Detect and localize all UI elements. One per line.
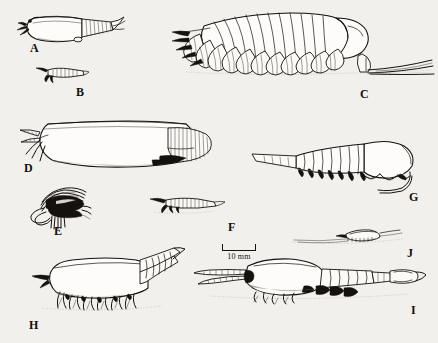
figure-c [170, 4, 436, 86]
specimen-plate: A B [0, 0, 438, 343]
figure-g [250, 132, 422, 194]
scale-bar: 10 mm [222, 244, 256, 261]
scale-bar-bracket [222, 244, 256, 251]
figure-label-f: F [228, 221, 236, 233]
figure-label-d: D [24, 162, 33, 174]
figure-i [194, 256, 426, 308]
figure-label-h: H [29, 319, 39, 331]
figure-label-c: C [360, 88, 369, 100]
figure-label-i: I [411, 304, 416, 316]
figure-h [28, 246, 186, 316]
figure-j [290, 226, 408, 250]
figure-b [34, 64, 90, 86]
figure-label-g: G [409, 191, 419, 203]
scale-bar-label: 10 mm [222, 252, 256, 261]
figure-label-b: B [76, 86, 84, 98]
figure-d [18, 116, 218, 172]
figure-f [148, 194, 226, 218]
figure-label-a: A [30, 42, 39, 54]
figure-label-j: J [407, 247, 413, 259]
figure-label-e: E [54, 225, 62, 237]
